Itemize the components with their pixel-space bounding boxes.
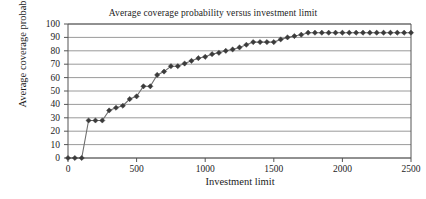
data-point-marker: [113, 105, 118, 110]
data-point-marker: [244, 42, 249, 47]
y-tick-label: 10: [34, 140, 60, 150]
data-point-marker: [306, 30, 311, 35]
data-point-marker: [312, 30, 317, 35]
series-line: [68, 33, 411, 158]
x-tick-label: 1000: [185, 164, 225, 174]
data-point-marker: [354, 30, 359, 35]
axis-ticks: [64, 24, 411, 162]
x-tick-label: 0: [48, 164, 88, 174]
data-point-marker: [292, 33, 297, 38]
x-tick-label: 2000: [322, 164, 362, 174]
y-tick-label: 60: [34, 73, 60, 83]
data-point-marker: [65, 155, 70, 160]
x-tick-label: 2500: [391, 164, 426, 174]
data-point-marker: [367, 30, 372, 35]
data-point-marker: [395, 30, 400, 35]
x-tick-label: 500: [117, 164, 157, 174]
data-point-marker: [189, 58, 194, 63]
chart-figure: Average coverage probability versus inve…: [0, 0, 426, 199]
data-point-marker: [326, 30, 331, 35]
y-tick-label: 70: [34, 59, 60, 69]
data-point-marker: [340, 30, 345, 35]
data-point-marker: [203, 54, 208, 59]
data-point-marker: [257, 39, 262, 44]
gridlines: [68, 24, 411, 158]
y-tick-label: 20: [34, 126, 60, 136]
data-point-marker: [155, 72, 160, 77]
data-point-marker: [347, 30, 352, 35]
data-point-marker: [148, 84, 153, 89]
y-tick-label: 80: [34, 46, 60, 56]
y-tick-label: 100: [34, 19, 60, 29]
data-point-marker: [381, 30, 386, 35]
y-tick-label: 90: [34, 32, 60, 42]
data-point-marker: [299, 32, 304, 37]
data-point-marker: [251, 39, 256, 44]
data-point-marker: [196, 56, 201, 61]
data-point-marker: [333, 30, 338, 35]
data-point-marker: [264, 39, 269, 44]
data-point-marker: [388, 30, 393, 35]
y-tick-label: 40: [34, 99, 60, 109]
data-point-marker: [402, 30, 407, 35]
y-tick-label: 30: [34, 113, 60, 123]
data-point-marker: [223, 48, 228, 53]
data-point-marker: [209, 52, 214, 57]
data-point-marker: [285, 35, 290, 40]
data-point-marker: [408, 30, 413, 35]
y-tick-label: 0: [34, 153, 60, 163]
data-series: [65, 30, 413, 160]
data-point-marker: [72, 155, 77, 160]
data-point-marker: [79, 155, 84, 160]
data-point-marker: [230, 47, 235, 52]
data-point-marker: [86, 118, 91, 123]
data-point-marker: [319, 30, 324, 35]
data-point-marker: [271, 39, 276, 44]
data-point-marker: [93, 118, 98, 123]
data-point-marker: [360, 30, 365, 35]
x-tick-label: 1500: [254, 164, 294, 174]
data-point-marker: [374, 30, 379, 35]
data-point-marker: [237, 45, 242, 50]
data-point-marker: [182, 61, 187, 66]
y-tick-label: 50: [34, 86, 60, 96]
